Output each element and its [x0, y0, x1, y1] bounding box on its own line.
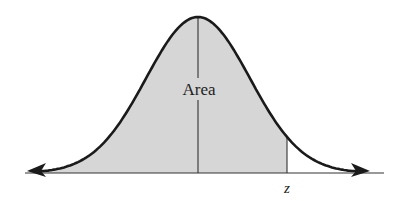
normal-distribution-diagram: Area z	[0, 0, 399, 201]
area-label: Area	[182, 80, 215, 99]
diagram-canvas: Area z	[0, 0, 399, 201]
shaded-area-region	[36, 17, 287, 173]
z-label: z	[283, 180, 290, 196]
